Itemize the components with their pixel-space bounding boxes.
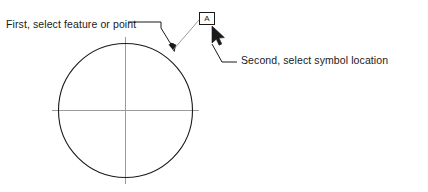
datum-symbol-letter: A bbox=[201, 13, 213, 24]
second-step-label: Second, select symbol location bbox=[241, 54, 388, 66]
first-step-label: First, select feature or point bbox=[6, 18, 136, 30]
second-step-leader bbox=[212, 44, 237, 62]
datum-leader-line bbox=[173, 20, 199, 50]
diagram-canvas: First, select feature or point Second, s… bbox=[0, 0, 428, 192]
centerlines-group bbox=[52, 37, 199, 184]
mouse-pointer-icon bbox=[212, 26, 224, 45]
